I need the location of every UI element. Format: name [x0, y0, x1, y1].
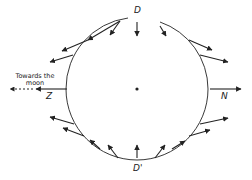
earth-circle-lower-right	[137, 89, 208, 160]
center-point	[135, 87, 138, 90]
force-arrow	[189, 130, 210, 136]
label-d: D	[134, 6, 141, 15]
force-arrow	[50, 55, 73, 62]
label-z: Z	[46, 92, 52, 101]
tidal-force-diagram	[0, 0, 252, 180]
force-arrow	[200, 118, 228, 124]
towards-moon-line2: moon	[12, 80, 58, 87]
force-arrow	[90, 140, 100, 149]
force-arrow	[62, 40, 88, 51]
force-arrow	[110, 21, 120, 35]
label-n: N	[221, 92, 228, 101]
force-arrow	[88, 21, 120, 40]
label-d-prime: D'	[133, 164, 142, 173]
force-arrow	[160, 26, 166, 36]
towards-moon-label: Towards the moon	[12, 73, 58, 87]
force-arrow	[200, 55, 228, 62]
earth-circle-lower-left	[66, 89, 137, 160]
earth-circle-upper-left	[66, 18, 128, 89]
force-arrow	[172, 141, 185, 149]
force-arrow	[50, 117, 74, 124]
